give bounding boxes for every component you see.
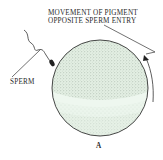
pigment-label-line1: MOVEMENT OF PIGMENT: [48, 9, 138, 17]
sperm-leader-line: [12, 50, 40, 77]
egg-sphere: [52, 40, 148, 140]
pigment-label-line2: OPPOSITE SPERM ENTRY: [48, 17, 136, 25]
sperm-label: SPERM: [10, 78, 35, 86]
sperm-icon: [24, 30, 56, 67]
panel-label: A: [96, 142, 101, 150]
